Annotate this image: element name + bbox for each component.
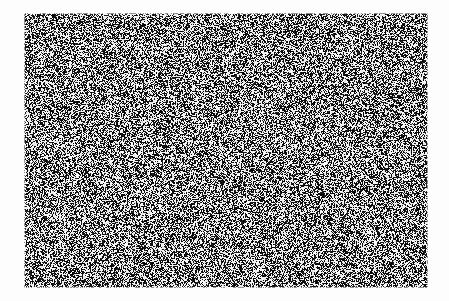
random-dot-noise-field [24,13,428,288]
figure-root [0,0,449,301]
